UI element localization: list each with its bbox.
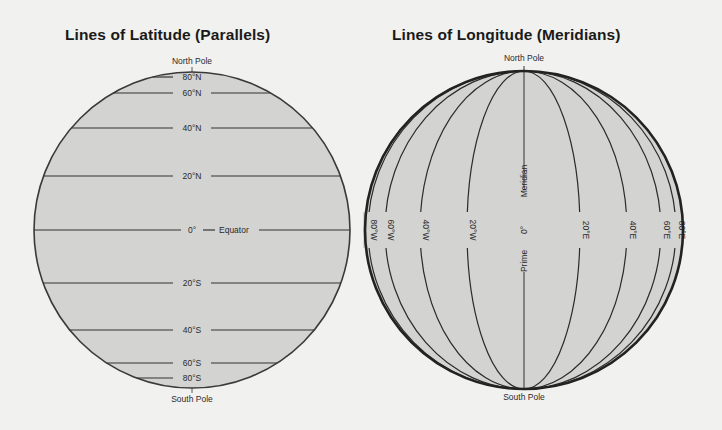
meridian-label: 20°W [468, 220, 478, 241]
north-pole-label-right: North Pole [504, 53, 544, 63]
latitude-label: 80°N [183, 72, 202, 82]
latitude-label: 20°S [183, 278, 202, 288]
latitude-label: 40°S [183, 325, 202, 335]
prime-meridian-label-bottom: Prime [519, 250, 529, 272]
latitude-label: 40°N [183, 123, 202, 133]
south-pole-label: South Pole [171, 394, 213, 404]
latitude-label: 80°S [183, 373, 202, 383]
meridian-label: 20°E [581, 221, 591, 240]
latitude-globe: 80°N60°N40°N20°NEquator0°20°S40°S60°S80°… [34, 56, 350, 404]
north-pole-label: North Pole [172, 56, 212, 66]
prime-meridian-label-top: Meridian [519, 164, 529, 197]
latitude-label: 0° [188, 225, 196, 235]
latitude-label: 60°S [183, 358, 202, 368]
south-pole-label-right: South Pole [503, 392, 545, 402]
meridian-label: 40°W [421, 220, 431, 241]
globe-diagrams: 80°N60°N40°N20°NEquator0°20°S40°S60°S80°… [0, 0, 722, 430]
equator-label: Equator [219, 225, 249, 235]
latitude-label: 60°N [183, 88, 202, 98]
meridian-label: 80°W [369, 220, 379, 241]
longitude-globe: 80°W60°W40°W20°W20°E40°E60°E80°E Meridia… [363, 53, 687, 402]
meridian-label: 60°E [662, 221, 672, 240]
meridian-label: 60°W [386, 220, 396, 241]
meridian-label: 40°E [628, 221, 638, 240]
prime-meridian-degree: 0° [519, 226, 529, 234]
latitude-label: 20°N [183, 171, 202, 181]
